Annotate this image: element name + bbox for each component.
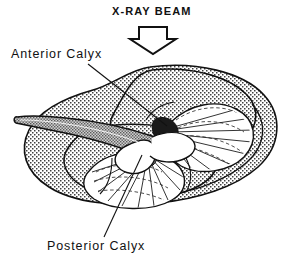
renal-pelvis-infundibulum-bridge — [150, 133, 195, 162]
kidney-diagram-svg — [0, 0, 290, 263]
anterior-calyx-label: Anterior Calyx — [11, 47, 102, 61]
posterior-calyx-label: Posterior Calyx — [47, 239, 145, 253]
xray-beam-kidney-calyces-figure: X-RAY BEAM Anterior Calyx Posterior Caly… — [0, 0, 290, 263]
xray-beam-label: X-RAY BEAM — [112, 5, 191, 17]
down-arrow-outline-icon — [130, 27, 176, 54]
